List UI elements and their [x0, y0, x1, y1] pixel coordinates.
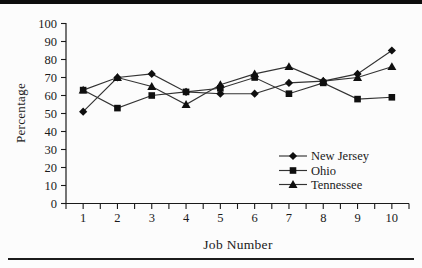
data-point-new-jersey — [285, 79, 293, 87]
y-tick-label: 100 — [38, 17, 57, 31]
data-point-ohio — [183, 89, 190, 96]
line-chart: 010203040506070809010012345678910New Jer… — [0, 0, 422, 268]
data-point-ohio — [251, 74, 258, 81]
legend-label-ohio: Ohio — [311, 164, 336, 178]
y-tick-label: 70 — [45, 71, 58, 85]
legend-marker-square — [290, 167, 297, 174]
data-point-new-jersey — [251, 90, 259, 98]
data-point-ohio — [320, 80, 327, 87]
data-point-ohio — [354, 96, 361, 103]
y-tick-label: 20 — [45, 161, 58, 175]
y-tick-label: 50 — [45, 107, 58, 121]
data-point-new-jersey — [148, 70, 156, 78]
x-tick-label: 2 — [114, 211, 120, 225]
x-tick-label: 8 — [320, 211, 326, 225]
data-point-new-jersey — [388, 46, 396, 54]
data-point-tennessee — [387, 62, 396, 70]
data-point-tennessee — [284, 62, 293, 70]
x-tick-label: 4 — [183, 211, 190, 225]
legend-marker-diamond — [289, 152, 297, 160]
data-point-tennessee — [182, 100, 191, 108]
figure: 010203040506070809010012345678910New Jer… — [0, 0, 422, 268]
y-tick-label: 60 — [45, 89, 58, 103]
y-tick-label: 0 — [51, 197, 57, 211]
legend-label-new-jersey: New Jersey — [311, 149, 370, 163]
y-tick-label: 80 — [45, 53, 58, 67]
data-point-ohio — [217, 85, 224, 92]
x-tick-label: 7 — [286, 211, 292, 225]
x-axis-title: Job Number — [203, 237, 272, 253]
legend-label-tennessee: Tennessee — [311, 178, 363, 192]
x-tick-label: 1 — [80, 211, 86, 225]
data-point-ohio — [389, 94, 396, 101]
x-tick-label: 6 — [252, 211, 258, 225]
bottom-rule — [8, 258, 414, 260]
data-point-ohio — [114, 105, 121, 112]
y-tick-label: 30 — [45, 143, 58, 157]
y-axis-title: Percentage — [13, 83, 29, 143]
data-point-ohio — [148, 92, 155, 99]
series-line-tennessee — [83, 67, 392, 105]
series-line-ohio — [83, 78, 392, 109]
y-tick-label: 40 — [45, 125, 58, 139]
x-tick-label: 10 — [386, 211, 399, 225]
data-point-ohio — [80, 87, 87, 94]
y-tick-label: 90 — [45, 35, 58, 49]
y-tick-label: 10 — [45, 179, 58, 193]
x-tick-label: 9 — [354, 211, 360, 225]
data-point-ohio — [286, 90, 293, 97]
x-tick-label: 3 — [149, 211, 155, 225]
x-tick-label: 5 — [217, 211, 223, 225]
